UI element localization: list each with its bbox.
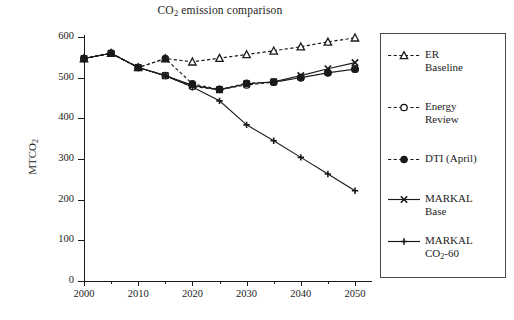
data-point-plus	[325, 171, 331, 177]
data-point-triangle	[189, 58, 196, 65]
series-line	[84, 53, 355, 190]
legend-label-line: Base	[425, 205, 473, 218]
x-tick	[192, 281, 193, 286]
y-tick-label: 0	[44, 275, 74, 285]
y-tick-label: 400	[44, 112, 74, 122]
x-tick-label: 2020	[169, 288, 215, 299]
legend-item-3[interactable]: DTI (April)	[387, 152, 503, 166]
legend: ERBaselineEnergyReviewDTI (April)MARKALB…	[380, 33, 506, 278]
y-tick-label: 300	[44, 153, 74, 163]
x-tick-label: 2010	[115, 288, 161, 299]
x-tick-minor	[328, 281, 329, 284]
x-tick-label: 2030	[224, 288, 270, 299]
legend-item-4[interactable]: MARKALBase	[387, 192, 503, 218]
y-tick-label: 200	[44, 194, 74, 204]
data-point-plus	[401, 238, 407, 244]
legend-marker-cross-x-icon	[387, 193, 421, 206]
y-tick-label: 600	[44, 31, 74, 41]
legend-item-5[interactable]: MARKALCO2-60	[387, 234, 503, 263]
legend-marker-plus-icon	[387, 235, 421, 248]
data-point-dot	[401, 156, 407, 162]
x-tick-label: 2000	[61, 288, 107, 299]
legend-marker-dot-icon	[387, 153, 421, 166]
y-axis-ticks: 0100200300400500600	[0, 0, 84, 320]
series-1	[80, 34, 358, 71]
x-tick	[355, 281, 356, 286]
legend-label: ERBaseline	[421, 48, 463, 74]
legend-marker-circle-icon	[387, 101, 421, 114]
data-point-triangle	[351, 34, 358, 41]
chart-figure: CO2 emission comparison MTCO2 0100200300…	[0, 0, 514, 320]
legend-label-line: MARKAL	[425, 234, 473, 247]
y-tick-label: 500	[44, 72, 74, 82]
data-point-dot	[162, 55, 168, 61]
chart-title-pre: CO	[157, 4, 173, 16]
x-tick-label: 2050	[332, 288, 378, 299]
x-tick-minor	[274, 281, 275, 284]
legend-label-line: ER	[425, 48, 463, 61]
legend-label: DTI (April)	[421, 152, 477, 165]
chart-title-post: emission comparison	[178, 4, 282, 16]
series-line	[84, 38, 355, 68]
x-tick-label: 2040	[278, 288, 324, 299]
legend-label-line: Review	[425, 113, 459, 126]
legend-label-line: MARKAL	[425, 192, 473, 205]
chart-title: CO2 emission comparison	[120, 4, 320, 18]
legend-label-line: Baseline	[425, 61, 463, 74]
legend-label-line: CO2-60	[425, 247, 473, 263]
legend-marker-triangle-icon	[387, 49, 421, 62]
x-tick	[84, 281, 85, 286]
x-tick	[247, 281, 248, 286]
data-point-dot	[352, 66, 358, 72]
data-point-plus	[352, 188, 358, 194]
plot-area	[84, 37, 355, 281]
data-point-triangle	[216, 54, 223, 61]
x-tick-minor	[220, 281, 221, 284]
legend-label: MARKALCO2-60	[421, 234, 473, 263]
data-point-triangle	[243, 51, 250, 58]
x-tick	[138, 281, 139, 286]
legend-label: MARKALBase	[421, 192, 473, 218]
y-tick-label: 100	[44, 234, 74, 244]
legend-label-line: DTI (April)	[425, 152, 477, 165]
legend-label: EnergyReview	[421, 100, 459, 126]
x-tick-minor	[111, 281, 112, 284]
x-tick	[301, 281, 302, 286]
legend-label-line: Energy	[425, 100, 459, 113]
data-point-circle	[401, 104, 407, 110]
data-point-plus	[271, 138, 277, 144]
x-tick-minor	[165, 281, 166, 284]
legend-item-1[interactable]: ERBaseline	[387, 48, 503, 74]
series-canvas	[84, 37, 355, 281]
legend-item-2[interactable]: EnergyReview	[387, 100, 503, 126]
data-point-plus	[298, 154, 304, 160]
